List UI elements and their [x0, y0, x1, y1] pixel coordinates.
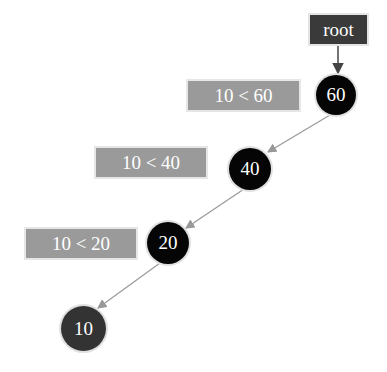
root-pointer-label: root — [310, 15, 367, 44]
comparison-label-20: 10 < 20 — [26, 229, 136, 258]
edge-40-20 — [186, 189, 244, 228]
comparison-label-40: 10 < 40 — [96, 148, 206, 177]
edges-layer — [0, 0, 387, 372]
tree-node-10: 10 — [61, 306, 106, 351]
tree-node-60: 60 — [316, 75, 356, 115]
comparison-label-60: 10 < 60 — [188, 81, 299, 110]
edge-20-10 — [98, 263, 160, 308]
tree-node-40: 40 — [229, 148, 271, 190]
edge-60-40 — [268, 115, 330, 152]
tree-node-20: 20 — [147, 222, 189, 264]
